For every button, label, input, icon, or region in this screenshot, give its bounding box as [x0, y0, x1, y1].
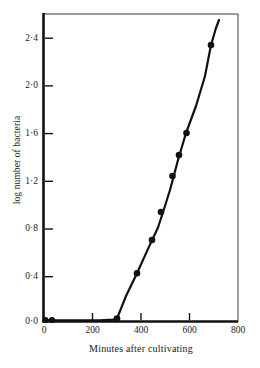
- data-point: [183, 130, 190, 137]
- data-point-markers: [42, 42, 214, 323]
- data-point: [42, 317, 48, 323]
- data-point: [176, 152, 183, 159]
- data-point: [169, 173, 176, 180]
- data-series-line: [45, 20, 219, 320]
- data-point: [134, 270, 141, 277]
- data-point: [49, 317, 55, 323]
- chart-figure: log number of bacteria 2·4 2·0 1·6 1·2 0…: [0, 0, 260, 368]
- plot-area: [0, 0, 260, 368]
- data-point: [114, 315, 121, 322]
- data-point: [208, 42, 215, 49]
- data-point: [158, 209, 165, 216]
- y-tick-marks: [45, 38, 53, 277]
- data-point: [149, 237, 156, 244]
